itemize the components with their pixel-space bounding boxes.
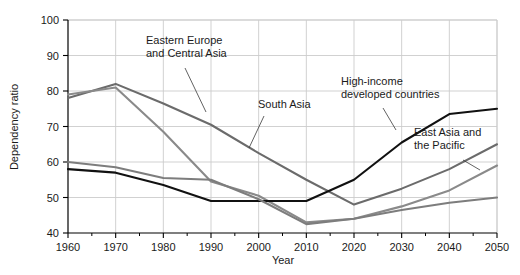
x-axis-title: Year	[272, 254, 295, 266]
series-annotation-label: the Pacific	[414, 139, 465, 151]
x-tick-label: 2020	[342, 241, 366, 253]
y-tick-label: 100	[41, 14, 59, 26]
x-tick-label: 1980	[151, 241, 175, 253]
y-tick-label: 50	[47, 192, 59, 204]
series-annotation-label: South Asia	[258, 98, 311, 110]
y-tick-label: 70	[47, 121, 59, 133]
y-tick-label: 90	[47, 50, 59, 62]
y-tick-label: 40	[47, 227, 59, 239]
x-tick-label: 2030	[389, 241, 413, 253]
dependency-ratio-line-chart: 100908070605040 196019701980199020002010…	[0, 0, 520, 275]
chart-container: 100908070605040 196019701980199020002010…	[0, 0, 520, 275]
series-annotation-label: developed countries	[341, 88, 440, 100]
x-tick-label: 2040	[437, 241, 461, 253]
x-tick-label: 1960	[56, 241, 80, 253]
x-tick-label: 1990	[199, 241, 223, 253]
series-annotation-label: Eastern Europe	[146, 34, 222, 46]
series-annotation-label: and Central Asia	[146, 47, 228, 59]
y-tick-label: 60	[47, 156, 59, 168]
x-tick-label: 2050	[485, 241, 509, 253]
series-annotation-label: High-income	[341, 75, 403, 87]
x-tick-label: 1970	[103, 241, 127, 253]
y-axis-title: Dependency ratio	[8, 84, 20, 170]
x-tick-label: 2010	[294, 241, 318, 253]
y-tick-label: 80	[47, 85, 59, 97]
x-tick-label: 2000	[246, 241, 270, 253]
series-annotation-label: East Asia and	[414, 126, 481, 138]
